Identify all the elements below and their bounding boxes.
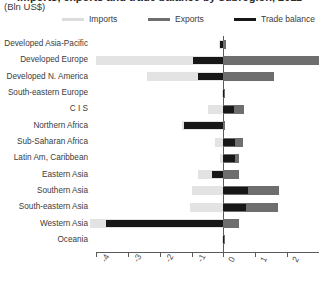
x-axis-tick (255, 252, 256, 257)
legend-item-exports[interactable]: Exports (148, 13, 204, 26)
x-axis-tick-label: -2 (163, 252, 175, 263)
y-axis-label: Latin Am, Caribbean (0, 153, 88, 163)
chart-container: Imports, exports and trade balance by su… (0, 0, 319, 282)
legend-item-trade-balance[interactable]: Trade balance (234, 13, 315, 26)
y-axis-label: Developed N. America (0, 72, 88, 82)
y-axis-label: Oceania (0, 235, 88, 245)
y-axis-label: South-eastern Europe (0, 88, 88, 98)
y-axis-label: South-eastern Asia (0, 202, 88, 212)
legend-label-imports: Imports (89, 13, 117, 26)
x-axis-tick (223, 252, 224, 257)
x-axis-tick-label: -4 (99, 252, 111, 263)
bar-balance (223, 187, 248, 194)
bar-balance (193, 57, 223, 64)
bar-balance (223, 155, 234, 162)
bar-exports (223, 72, 274, 81)
bar-imports (215, 138, 223, 147)
chart-unit-label: (Bln US$) (4, 1, 45, 12)
y-axis-label: Eastern Asia (0, 170, 88, 180)
bar-exports (223, 219, 239, 228)
x-axis-tick-label: -1 (195, 252, 207, 263)
y-axis-labels: Developed Asia-PacificDeveloped EuropeDe… (0, 36, 92, 248)
bar-balance (198, 73, 223, 80)
bar-exports (223, 121, 225, 130)
bar-exports (223, 40, 226, 49)
x-axis-tick (287, 252, 288, 257)
legend-label-trade-balance: Trade balance (261, 13, 315, 26)
x-axis-tick-label: -3 (131, 252, 143, 263)
bar-balance (212, 171, 223, 178)
bar-exports (223, 56, 319, 65)
bar-exports (223, 170, 239, 179)
bar-balance (223, 90, 224, 97)
legend-swatch-imports (62, 18, 84, 21)
bar-balance (223, 106, 233, 113)
y-axis-label: Developed Europe (0, 55, 88, 65)
x-axis: -4-3-2-10123 (96, 252, 319, 282)
bar-imports (190, 203, 223, 212)
x-axis-tick (192, 252, 193, 257)
legend-swatch-trade-balance (234, 18, 256, 21)
legend-item-imports[interactable]: Imports (62, 13, 117, 26)
bar-balance (220, 41, 224, 48)
x-axis-tick-label: 2 (290, 255, 301, 264)
bar-balance (223, 204, 245, 211)
bar-balance (184, 122, 224, 129)
y-axis-label: Developed Asia-Pacific (0, 39, 88, 49)
y-axis-label: C I S (0, 104, 88, 114)
bar-imports (208, 105, 224, 114)
bar-balance (106, 220, 224, 227)
chart-legend: Imports Exports Trade balance (62, 13, 314, 26)
x-axis-tick (128, 252, 129, 257)
y-axis-label: Southern Asia (0, 186, 88, 196)
chart-title: Imports, exports and trade balance by su… (6, 0, 313, 5)
x-axis-tick-label: 0 (226, 255, 237, 264)
x-axis-tick-label: 1 (258, 255, 269, 264)
legend-label-exports: Exports (175, 13, 204, 26)
x-axis-tick (96, 252, 97, 257)
y-axis-label: Sub-Saharan Africa (0, 137, 88, 147)
bar-balance (223, 139, 234, 146)
bar-imports (192, 186, 224, 195)
x-axis-tick (160, 252, 161, 257)
x-axis-line (96, 252, 319, 253)
y-axis-label: Western Asia (0, 219, 88, 229)
legend-swatch-exports (148, 18, 170, 21)
y-axis-label: Northern Africa (0, 121, 88, 131)
bar-balance (223, 236, 224, 243)
plot-area (96, 36, 319, 248)
